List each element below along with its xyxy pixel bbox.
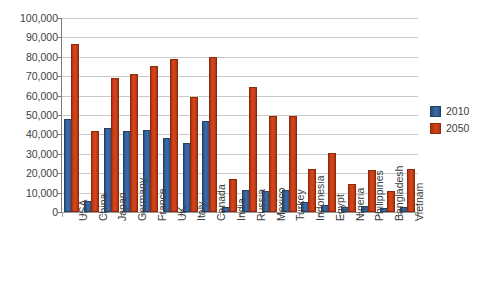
y-axis-tick-label: 50,000 <box>2 110 58 121</box>
y-axis-tick-label: 60,000 <box>2 91 58 102</box>
x-axis-label-india: India <box>236 198 247 221</box>
x-axis-label-japan: Japan <box>117 192 128 221</box>
x-axis-label-uk: UK <box>177 206 188 221</box>
bar-italy-2050[interactable] <box>190 97 198 212</box>
x-axis-label-indonesia: Indonesia <box>315 175 326 221</box>
y-axis-tick-label: 0 <box>2 207 58 218</box>
x-axis-label-bangladesh: Bangladesh <box>394 166 405 221</box>
legend-label-2010: 2010 <box>446 106 469 117</box>
y-axis-tick-label: 20,000 <box>2 168 58 179</box>
y-axis-tick-label: 40,000 <box>2 129 58 140</box>
bar-group <box>62 18 82 212</box>
y-axis-tick-label: 10,000 <box>2 188 58 199</box>
bar-group <box>339 18 359 212</box>
legend-label-2050: 2050 <box>446 123 469 134</box>
bar-usa-2050[interactable] <box>71 44 79 212</box>
plot-area <box>62 18 418 212</box>
legend-swatch-2050 <box>430 123 441 134</box>
bar-group <box>240 18 260 212</box>
x-axis-label-philippines: Philippines <box>374 170 385 221</box>
chart-legend: 20102050 <box>430 104 481 138</box>
bar-group <box>280 18 300 212</box>
y-axis-tick-label: 70,000 <box>2 71 58 82</box>
x-axis-label-russia: Russia <box>256 189 267 221</box>
y-axis-tick-label: 90,000 <box>2 32 58 43</box>
legend-item-2050[interactable]: 2050 <box>430 121 481 136</box>
y-axis-tick-label: 30,000 <box>2 149 58 160</box>
bar-group <box>220 18 240 212</box>
bar-group <box>161 18 181 212</box>
y-axis-tick-label: 100,000 <box>2 13 58 24</box>
x-axis-label-vietnam: Vietnam <box>414 183 425 221</box>
legend-swatch-2010 <box>430 106 441 117</box>
x-axis-label-nigeria: Nigeria <box>355 188 366 221</box>
bar-group <box>82 18 102 212</box>
x-axis-label-usa: USA <box>78 199 89 221</box>
y-axis-tick-labels: 100,00090,00080,00070,00060,00050,00040,… <box>0 0 58 286</box>
x-axis-label-canada: Canada <box>216 184 227 221</box>
x-axis-tick-mark <box>62 212 63 217</box>
bar-group <box>181 18 201 212</box>
legend-item-2010[interactable]: 2010 <box>430 104 481 119</box>
x-axis-label-egypt: Egypt <box>335 194 346 221</box>
bar-group <box>200 18 220 212</box>
x-axis-label-china: China <box>98 194 109 221</box>
bar-group <box>260 18 280 212</box>
bar-group <box>102 18 122 212</box>
x-axis-label-france: France <box>157 188 168 221</box>
x-axis-category-labels: USAChinaJapanGermanyFranceUKItalyCanadaI… <box>62 219 418 286</box>
bar-chart: 100,00090,00080,00070,00060,00050,00040,… <box>0 0 481 286</box>
x-axis-label-italy: Italy <box>196 202 207 221</box>
y-axis-tick-label: 80,000 <box>2 52 58 63</box>
x-axis-label-germany: Germany <box>137 178 148 221</box>
x-axis-label-mexico: Mexico <box>276 188 287 221</box>
x-axis-label-turkey: Turkey <box>295 189 306 221</box>
bar-uk-2050[interactable] <box>170 59 178 212</box>
